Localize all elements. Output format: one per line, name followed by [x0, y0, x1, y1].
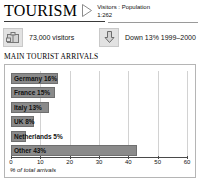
ratio-label: Visitors : Population	[97, 4, 150, 12]
header-divider	[108, 22, 198, 23]
chart-bar-label: Italy 13%	[14, 102, 42, 113]
chart-bar-row: Other 43%	[11, 145, 187, 156]
chart-bar-label: Other 43%	[14, 145, 46, 156]
stat-visitors: 73,000 visitors	[3, 28, 99, 47]
section-title: MAIN TOURIST ARRIVALS	[0, 48, 200, 61]
stats-row: 73,000 visitors Down 13% 1999–2000	[0, 26, 200, 48]
triangle-right-icon	[81, 3, 93, 18]
chart-x-label: % of total arrivals	[10, 167, 56, 173]
tick-label: 50	[154, 159, 161, 165]
stat-change-label: Down 13% 1999–2000	[125, 34, 196, 41]
chart-bar-label: France 15%	[14, 87, 50, 98]
suitcase-icon	[3, 28, 23, 47]
tick-label: 20	[66, 159, 73, 165]
tick-label: 40	[125, 159, 132, 165]
tourist-arrivals-chart: Germany 16%France 15%Italy 13%UK 8%Nethe…	[4, 64, 196, 178]
chart-bars: Germany 16%France 15%Italy 13%UK 8%Nethe…	[11, 71, 187, 158]
chart-bar-row: Germany 16%	[11, 73, 187, 84]
title-underline	[4, 21, 105, 22]
tick-label: 10	[37, 159, 44, 165]
chart-bar-row: Netherlands 5%	[11, 131, 187, 142]
chart-bar-row: France 15%	[11, 87, 187, 98]
tick-label: 30	[96, 159, 103, 165]
chart-bar-label: Netherlands 5%	[14, 131, 63, 142]
stat-visitors-label: 73,000 visitors	[29, 34, 74, 41]
down-arrow-icon	[99, 28, 119, 47]
gridline	[187, 71, 188, 158]
chart-bar-label: Germany 16%	[14, 73, 57, 84]
page-title: TOURISM	[4, 1, 77, 20]
chart-plot-area: Germany 16%France 15%Italy 13%UK 8%Nethe…	[11, 71, 187, 158]
stat-change: Down 13% 1999–2000	[99, 28, 196, 47]
chart-bar-row: Italy 13%	[11, 102, 187, 113]
ratio-block: Visitors : Population 1:262	[81, 1, 150, 19]
ratio-text: Visitors : Population 1:262	[97, 3, 150, 19]
header: TOURISM Visitors : Population 1:262	[0, 0, 200, 23]
ratio-value: 1:262	[97, 12, 150, 20]
tick-label: 60	[184, 159, 191, 165]
chart-bar-label: UK 8%	[14, 116, 35, 127]
tick-label: 0	[9, 159, 12, 165]
chart-bar-row: UK 8%	[11, 116, 187, 127]
